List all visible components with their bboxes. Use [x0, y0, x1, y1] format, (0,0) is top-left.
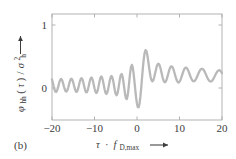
panel-caption: (b) [14, 139, 27, 152]
y-axis-title-paren-open: ( [15, 90, 27, 94]
y-axis-title-sigma: σ [15, 62, 26, 68]
x-tick-label-0: 0 [134, 122, 140, 134]
y-tick-label-0: 0 [42, 82, 48, 94]
x-tick-label-10: 10 [174, 122, 186, 134]
x-axis-arrow-head [163, 143, 168, 148]
x-axis-title: τ · f D,max [96, 139, 168, 152]
y-axis-title-slash: / [15, 71, 26, 74]
y-tick-label-1: 1 [42, 19, 48, 31]
y-axis-ticks-right [219, 25, 223, 88]
y-axis-title-phi-subscript: hh [19, 96, 28, 104]
x-axis-title-tau: τ [96, 139, 101, 150]
x-axis-ticks [52, 117, 222, 121]
x-tick-label-minus20: −20 [43, 122, 61, 134]
y-axis-title-paren-close: ) [15, 77, 27, 81]
svg-text:τ · f: τ · f D,max [96, 139, 139, 152]
y-axis-title-phi: φ [15, 106, 26, 112]
x-axis-title-f: f [114, 139, 119, 150]
x-axis-title-dot: · [105, 139, 109, 150]
y-axis-title-tau: τ [15, 83, 26, 88]
y-axis-title: φ hh ( τ ) / σ 2 h [11, 36, 28, 112]
x-axis-ticks-top [52, 14, 222, 18]
x-axis-title-f-subscript: D,max [119, 143, 139, 152]
svg-text:φ hh (: φ hh ( τ ) / σ 2 h [11, 54, 28, 112]
y-axis-arrow-head [18, 36, 23, 41]
x-tick-label-20: 20 [217, 122, 229, 134]
x-tick-label-minus10: −10 [86, 122, 104, 134]
y-axis-title-sigma-subscript: h [19, 54, 28, 58]
figure-panel-b: 1 0 −20 −10 0 10 20 τ · f D,max φ hh ( [0, 0, 236, 159]
autocorrelation-chart: 1 0 −20 −10 0 10 20 τ · f D,max φ hh ( [0, 0, 236, 159]
autocorrelation-curve [52, 50, 222, 107]
